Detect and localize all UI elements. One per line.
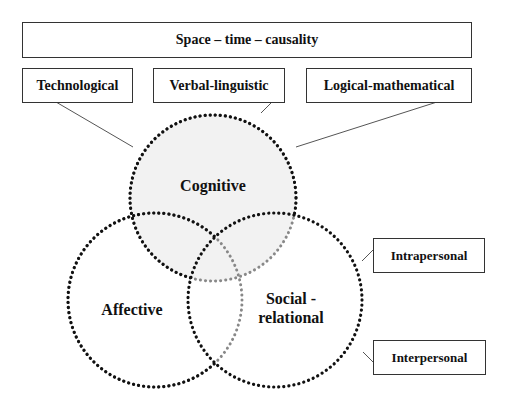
connector-interpersonal [363,352,373,362]
affective-label: Affective [101,300,162,319]
cognitive-label: Cognitive [180,176,246,195]
social-relational-label: Social - relational [258,289,323,327]
social-label-line1: Social - [258,289,323,308]
cognitive-label-text: Cognitive [180,177,246,194]
technological-label: Technological [37,78,119,94]
technological-box: Technological [22,68,133,103]
verbal-linguistic-box: Verbal-linguistic [153,68,285,103]
intrapersonal-box: Intrapersonal [373,238,485,273]
verbal-linguistic-label: Verbal-linguistic [169,78,268,94]
logical-mathematical-box: Logical-mathematical [306,68,472,103]
affective-label-text: Affective [101,301,162,318]
connector-verbal-linguistic [261,102,272,113]
space-time-causality-label: Space – time – causality [176,32,318,48]
connector-intrapersonal [362,250,373,261]
interpersonal-label: Interpersonal [392,350,468,366]
logical-mathematical-label: Logical-mathematical [324,78,455,94]
space-time-causality-box: Space – time – causality [22,22,472,58]
social-label-line2: relational [258,308,323,327]
connector-technological [56,102,133,147]
intrapersonal-label: Intrapersonal [391,248,468,264]
connector-logical-mathematical [296,102,437,147]
interpersonal-box: Interpersonal [373,340,486,375]
